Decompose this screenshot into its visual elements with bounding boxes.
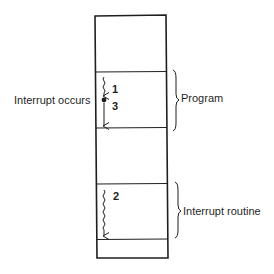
program-flow	[102, 77, 107, 126]
memory-block	[95, 15, 168, 258]
divider-2	[96, 128, 167, 129]
step-3-number: 3	[112, 100, 118, 112]
divider-1	[96, 72, 167, 73]
wavy-arrow-step-1-icon	[103, 77, 105, 96]
interrupt-routine-label: Interrupt routine	[183, 205, 261, 217]
divider-3	[97, 184, 168, 185]
program-label: Program	[181, 92, 223, 104]
divider-4	[97, 239, 168, 240]
program-brace-icon	[173, 70, 179, 131]
interrupt-occurs-label: Interrupt occurs	[14, 94, 90, 106]
wavy-arrow-step-2-icon	[103, 190, 105, 236]
memory-block-outline	[95, 15, 168, 258]
interrupt-routine-flow	[103, 190, 105, 236]
step-2-number: 2	[113, 190, 119, 202]
step-1-number: 1	[112, 83, 118, 95]
interrupt-diagram	[0, 0, 274, 274]
interrupt-routine-brace-icon	[175, 182, 181, 238]
interrupt-point-icon	[102, 98, 107, 103]
